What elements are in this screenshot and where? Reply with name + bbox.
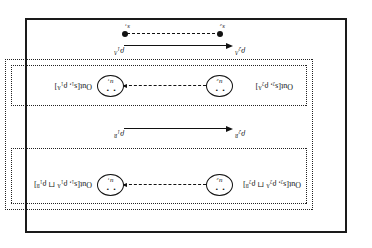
bottom-transition-target-label: ρ₂ᴬ	[235, 47, 245, 56]
upper-dotted-region	[11, 148, 307, 204]
lower-out-label-right: Out[s₁, ρ₁ᴬ]	[55, 82, 92, 91]
upper-out-label-left: Out[s₂, ρ₂ᴬ ⊓ ρ₂ᴮ]	[243, 180, 301, 189]
upper-node-u2: • • u₂	[206, 174, 233, 196]
upper-node-u2-label: u₂	[207, 177, 232, 184]
lower-out-label-left: Out[s₂, ρ₂ᴬ]	[256, 82, 293, 91]
figure-canvas: Out[s₂, ρ₂ᴬ ⊓ ρ₂ᴮ] • • u₂ • • u₁ Out[s₁,…	[0, 0, 372, 248]
lower-dashed-link	[124, 85, 206, 86]
middle-transition-source-label: ρ₁ᴮ	[114, 130, 124, 139]
middle-transition-line	[124, 128, 228, 129]
bottom-state-node-s2	[217, 31, 223, 37]
outer-solid-frame: Out[s₂, ρ₂ᴬ ⊓ ρ₂ᴮ] • • u₂ • • u₁ Out[s₁,…	[25, 18, 347, 233]
upper-node-u1: • • u₁	[97, 174, 124, 196]
lower-node-u1-glyph: • •	[98, 87, 123, 92]
bottom-state-node-s1	[122, 31, 128, 37]
bottom-state-label-s2: s₂	[220, 23, 225, 31]
lower-node-u2-label: u₂	[207, 78, 232, 85]
lower-node-u2-glyph: • •	[207, 87, 232, 92]
bottom-state-label-s1: s₁	[125, 23, 130, 31]
upper-node-u2-glyph: • •	[207, 186, 232, 191]
lower-node-u1-label: u₁	[98, 78, 123, 85]
upper-node-u1-glyph: • •	[98, 186, 123, 191]
upper-out-label-right: Out[s₁, ρ₁ᴬ ⊓ ρ₁ᴮ]	[34, 180, 92, 189]
upper-node-u1-label: u₁	[98, 177, 123, 184]
bottom-transition-line	[124, 45, 228, 46]
middle-transition-arrowhead	[226, 126, 233, 132]
upper-dashed-link	[124, 184, 206, 185]
lower-node-u1: • • u₁	[97, 75, 124, 97]
bottom-states-dashed-link	[127, 33, 215, 34]
bottom-transition-source-label: ρ₁ᴬ	[114, 47, 124, 56]
middle-transition-target-label: ρ₂ᴮ	[235, 130, 245, 139]
lower-node-u2: • • u₂	[206, 75, 233, 97]
bottom-transition-arrowhead	[226, 43, 233, 49]
